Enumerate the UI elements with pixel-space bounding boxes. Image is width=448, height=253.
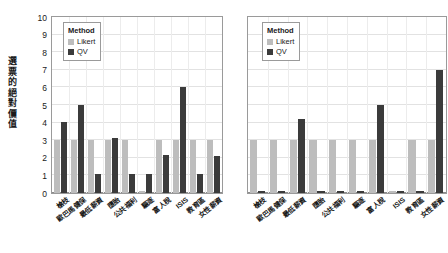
bar-likert-9 <box>207 140 213 193</box>
bar-qv-1 <box>78 105 84 193</box>
bar-qv-5 <box>146 174 152 193</box>
bar-likert-6 <box>156 140 162 193</box>
bar-likert-3 <box>105 140 111 193</box>
bar-qv-2 <box>95 174 101 193</box>
bar-likert-5 <box>139 191 145 193</box>
bar-qv-2 <box>298 119 305 193</box>
chart-panel-left: 選票的絕對價值 012345678910 Method Likert QV 槍枝… <box>0 0 228 253</box>
y-axis-label-left: 選票的絕對價值 <box>4 56 20 130</box>
bar-qv-6 <box>163 155 169 193</box>
y-tick-9: 9 <box>42 31 47 40</box>
x-axis-ticks-left: 槍枝歐巴馬健保最低薪資墮胎公共福利驅逐富人稅ISIS教育區女性薪資 <box>51 196 223 253</box>
bar-qv-8 <box>197 174 203 193</box>
bar-qv-4 <box>337 191 344 193</box>
bar-likert-7 <box>173 140 179 193</box>
legend-right: Method Likert QV <box>262 22 300 61</box>
x-tick-6: 富人稅 <box>365 196 386 215</box>
legend-item-likert: Likert <box>68 37 95 47</box>
bar-qv-0 <box>258 191 265 193</box>
y-tick-0: 0 <box>42 190 47 199</box>
legend-swatch-qv-icon <box>68 49 74 55</box>
legend-label-qv: QV <box>276 47 287 57</box>
bar-likert-0 <box>54 140 60 193</box>
bar-likert-6 <box>369 140 376 193</box>
bar-qv-9 <box>436 70 443 193</box>
bar-likert-2 <box>290 140 297 193</box>
bar-likert-0 <box>250 140 257 193</box>
y-tick-1: 1 <box>42 172 47 181</box>
bar-likert-1 <box>270 140 277 193</box>
y-tick-5: 5 <box>42 102 47 111</box>
legend-swatch-likert-icon <box>267 39 273 45</box>
bar-qv-5 <box>357 191 364 193</box>
legend-label-likert: Likert <box>276 37 294 47</box>
legend-label-likert: Likert <box>77 37 95 47</box>
chart-panel-right: Method Likert QV 槍枝歐巴馬健保最低薪資墮胎公共福利驅逐富人稅I… <box>228 0 448 253</box>
y-axis-ticks-left: 012345678910 <box>27 16 47 194</box>
figure-two-panel-bar-charts: 選票的絕對價值 012345678910 Method Likert QV 槍枝… <box>0 0 448 253</box>
bar-qv-3 <box>112 138 118 193</box>
legend-item-likert: Likert <box>267 37 294 47</box>
bar-qv-0 <box>61 122 67 193</box>
y-tick-7: 7 <box>42 66 47 75</box>
bar-qv-6 <box>377 105 384 193</box>
legend-item-qv: QV <box>68 47 95 57</box>
bar-likert-1 <box>71 140 77 193</box>
x-axis-ticks-right: 槍枝歐巴馬健保最低薪資墮胎公共福利驅逐富人稅ISIS教育區女性薪資 <box>247 196 447 253</box>
x-tick-6: 富人稅 <box>151 196 172 215</box>
y-tick-6: 6 <box>42 84 47 93</box>
legend-swatch-qv-icon <box>267 49 273 55</box>
y-tick-8: 8 <box>42 49 47 58</box>
legend-title: Method <box>267 26 294 36</box>
legend-left: Method Likert QV <box>63 22 101 61</box>
bar-qv-9 <box>214 156 220 193</box>
y-tick-2: 2 <box>42 154 47 163</box>
bar-likert-8 <box>190 140 196 193</box>
y-tick-4: 4 <box>42 119 47 128</box>
bar-qv-7 <box>180 87 186 193</box>
bar-qv-4 <box>129 174 135 193</box>
bar-qv-1 <box>278 191 285 193</box>
bar-likert-3 <box>309 140 316 193</box>
legend-swatch-likert-icon <box>68 39 74 45</box>
bar-likert-8 <box>408 140 415 193</box>
legend-label-qv: QV <box>77 47 88 57</box>
bar-likert-4 <box>329 140 336 193</box>
bar-qv-8 <box>416 191 423 193</box>
bar-qv-7 <box>397 191 404 193</box>
bar-likert-5 <box>349 140 356 193</box>
legend-title: Method <box>68 26 95 36</box>
bar-likert-4 <box>122 140 128 193</box>
y-tick-3: 3 <box>42 137 47 146</box>
bar-likert-9 <box>428 140 435 193</box>
y-tick-10: 10 <box>38 14 47 23</box>
bar-likert-2 <box>88 140 94 193</box>
legend-item-qv: QV <box>267 47 294 57</box>
bar-likert-7 <box>389 191 396 193</box>
bar-qv-3 <box>317 191 324 193</box>
